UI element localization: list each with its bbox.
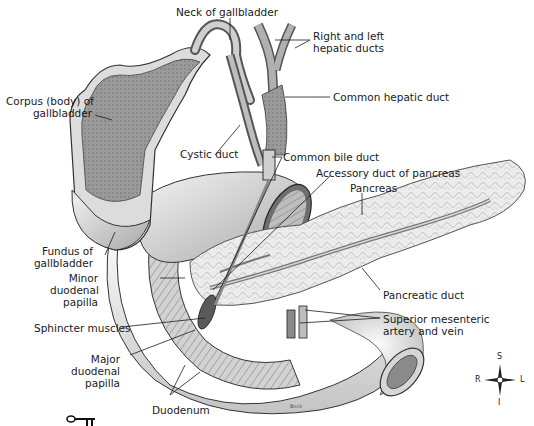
label-superior-mesenteric-line1: Superior mesenteric [383,313,490,325]
label-right-left-hepatic-ducts-line1: Right and left [313,30,384,42]
compass-superior: S [497,352,502,361]
key-icon [66,413,96,426]
label-corpus-line1: Corpus (body) of [6,95,92,107]
compass-inferior: I [498,398,500,407]
label-superior-mesenteric-line2: artery and vein [383,325,464,337]
compass-left: L [520,375,524,384]
label-cystic-duct: Cystic duct [180,148,238,160]
label-pancreas: Pancreas [350,182,397,194]
label-major-papilla-line1: Major [60,353,120,365]
label-minor-papilla-line3: papilla [50,296,98,308]
label-sphincter-muscles: Sphincter muscles [34,322,131,334]
label-common-bile-duct: Common bile duct [283,151,379,163]
hepatic-ducts-shape [258,25,292,155]
label-major-papilla-line2: duodenal [60,365,120,377]
label-minor-papilla-line2: duodenal [50,284,98,296]
label-common-hepatic-duct: Common hepatic duct [333,91,449,103]
label-major-papilla-line3: papilla [60,377,120,389]
label-pancreatic-duct: Pancreatic duct [383,289,464,301]
label-corpus-line2: gallbladder [6,107,92,119]
label-accessory-duct-of-pancreas: Accessory duct of pancreas [316,167,460,179]
compass-right: R [475,375,481,384]
label-fundus-line2: gallbladder [30,257,93,269]
orientation-compass: S I R L [470,350,530,410]
artist-signature: Beck [290,403,302,409]
label-minor-papilla-line1: Minor [50,272,98,284]
label-fundus-line1: Fundus of [30,245,93,257]
label-neck-of-gallbladder: Neck of gallbladder [176,6,278,18]
label-duodenum: Duodenum [152,404,210,416]
label-right-left-hepatic-ducts-line2: hepatic ducts [313,42,384,54]
superior-mesenteric-vessels-shape [287,306,307,338]
